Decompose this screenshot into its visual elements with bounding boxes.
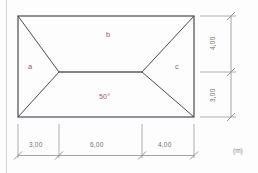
unit-note: (m) [233,148,243,155]
face-label-b: b [106,31,110,39]
hip-line-top-left [18,16,59,72]
bottom-dimension-label-1: 6,00 [90,142,103,149]
right-dimension-label-0: 4,00 [210,37,217,50]
right-dimension-group [200,12,236,121]
hip-line-bottom-left [18,72,59,117]
bottom-dimension-label-0: 3,00 [29,142,42,149]
pitch-angle-label: 50° [99,93,110,100]
face-label-c: c [175,63,179,71]
roof-plan-drawing: a b c 50° 3,00 6,00 4,00 4,00 3,00 (m) [0,0,258,173]
face-label-a: a [28,63,32,71]
hip-line-bottom-right [142,72,194,117]
right-dimension-label-1: 3,00 [210,89,217,102]
hip-line-top-right [142,16,194,72]
bottom-dimension-label-2: 4,00 [158,142,171,149]
